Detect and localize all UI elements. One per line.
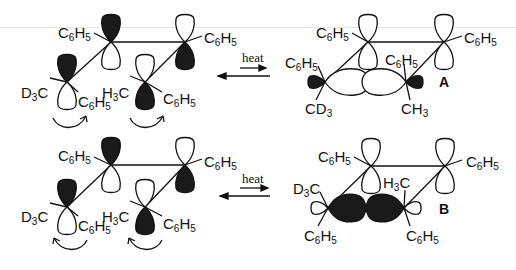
product-label-A: A — [439, 75, 449, 89]
pA-c3-top-substituent: C6H5 — [285, 55, 318, 70]
r1-c3-left-substituent: D3C — [21, 85, 48, 100]
pB-c3-top-substituent: D3C — [293, 181, 320, 196]
r2-c3-left-substituent: D3C — [21, 209, 48, 224]
equilibrium-arrows-top — [218, 65, 270, 79]
pB-c2-substituent: C6H5 — [466, 154, 499, 169]
pA-c1-substituent: C6H5 — [316, 25, 349, 40]
pB-c1-substituent: C6H5 — [318, 149, 351, 164]
r2-c4-left-substituent: H3C — [102, 209, 129, 224]
r1-c2-substituent: C6H5 — [204, 30, 237, 45]
r1-c4-left-substituent: H3C — [102, 85, 129, 100]
r2-c2-substituent: C6H5 — [204, 154, 237, 169]
pB-c4-top-substituent: H3C — [383, 175, 410, 190]
heat-label-top: heat — [242, 51, 264, 64]
equilibrium-arrows-bottom — [220, 185, 270, 199]
pA-c4-bottom-substituent: CH3 — [401, 101, 428, 116]
pB-c4-bottom-substituent: C6H5 — [406, 228, 439, 243]
pB-c3-bottom-substituent: C6H5 — [304, 228, 337, 243]
pA-c4-top-substituent: C6H5 — [385, 52, 418, 67]
reaction-scheme: C6H5 C6H5 D3C C6H5 H3C C6H5 heat C6H5 C6… — [0, 0, 516, 270]
product-label-B: B — [439, 202, 449, 216]
heat-label-bottom: heat — [242, 172, 264, 185]
r2-c1-substituent: C6H5 — [58, 148, 91, 163]
r1-c4-right-substituent: C6H5 — [163, 91, 196, 106]
r2-c4-right-substituent: C6H5 — [163, 216, 196, 231]
r1-c1-substituent: C6H5 — [58, 25, 91, 40]
pA-c2-substituent: C6H5 — [464, 30, 497, 45]
pA-c3-bottom-substituent: CD3 — [305, 101, 332, 116]
